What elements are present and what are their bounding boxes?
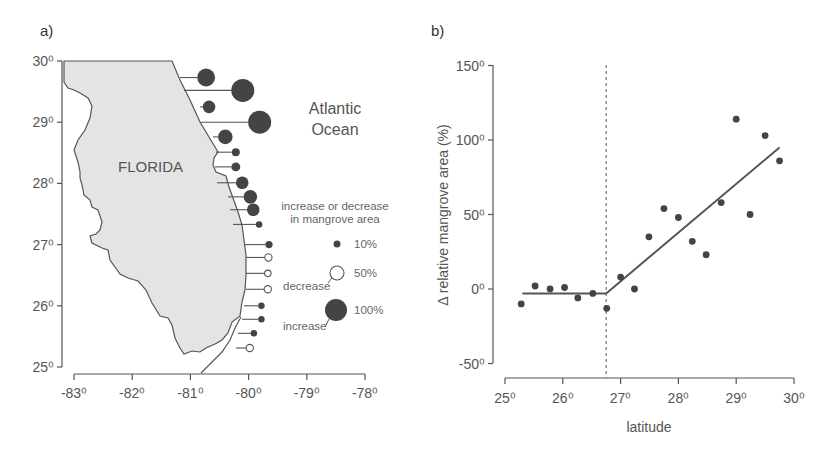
- data-point: [762, 132, 769, 139]
- increase-marker: [251, 330, 258, 337]
- y-tick-label: 150⁰: [456, 58, 485, 74]
- legend-10pct-marker: [334, 241, 341, 248]
- y-tick-label: 26⁰: [32, 298, 54, 314]
- decrease-marker: [265, 254, 272, 261]
- panel-b-y-ticks: 150⁰100⁰50⁰0⁰-50⁰: [456, 58, 493, 372]
- data-point: [518, 301, 525, 308]
- legend-50pct-label: 50%: [354, 267, 377, 279]
- x-tick-label: 26⁰: [552, 390, 574, 406]
- legend-10pct-label: 10%: [354, 238, 377, 250]
- panel-b-x-ticks: 25⁰26⁰27⁰28⁰29⁰30⁰: [494, 378, 805, 406]
- data-point: [532, 283, 539, 290]
- data-point: [574, 295, 581, 302]
- panel-a-y-ticks: 30⁰29⁰28⁰27⁰26⁰25⁰: [32, 53, 62, 375]
- data-point: [675, 214, 682, 221]
- data-point: [733, 116, 740, 123]
- increase-marker: [231, 162, 240, 171]
- data-point: [547, 286, 554, 293]
- x-tick-label: -82⁰: [119, 385, 145, 401]
- increase-marker: [232, 148, 240, 156]
- increase-marker: [244, 190, 258, 204]
- y-tick-label: 100⁰: [456, 132, 485, 148]
- legend-100pct-marker: [325, 299, 347, 321]
- decrease-marker: [246, 344, 253, 351]
- atlantic-label-line2: Ocean: [311, 121, 358, 138]
- increase-marker: [256, 221, 263, 228]
- y-tick-label: 0⁰: [471, 281, 485, 297]
- decrease-marker: [265, 270, 272, 277]
- x-tick-label: 25⁰: [494, 390, 516, 406]
- x-tick-label: -81⁰: [177, 385, 203, 401]
- piecewise-fit-line: [522, 147, 779, 293]
- data-point: [689, 238, 696, 245]
- legend-100pct-label: 100%: [354, 304, 383, 316]
- increase-marker: [265, 241, 272, 248]
- data-point: [776, 157, 783, 164]
- panel-a-label: a): [40, 22, 53, 39]
- data-point: [589, 290, 596, 297]
- y-tick-label: 29⁰: [32, 114, 54, 130]
- x-tick-label: -83⁰: [61, 385, 87, 401]
- panel-a: a) 30⁰29⁰28⁰27⁰26⁰25⁰ -83⁰-82⁰-81⁰-80⁰-7…: [32, 22, 388, 401]
- y-tick-label: 28⁰: [32, 175, 54, 191]
- x-tick-label: 27⁰: [610, 390, 632, 406]
- increase-marker: [248, 111, 271, 134]
- increase-marker: [258, 303, 265, 310]
- panel-a-x-ticks: -83⁰-82⁰-81⁰-80⁰-79⁰-78⁰: [61, 374, 378, 401]
- figure: a) 30⁰29⁰28⁰27⁰26⁰25⁰ -83⁰-82⁰-81⁰-80⁰-7…: [0, 0, 828, 454]
- y-tick-label: 27⁰: [32, 237, 54, 253]
- y-tick-label: 30⁰: [32, 53, 54, 69]
- data-point: [631, 286, 638, 293]
- panel-b-y-label: Δ relative mangrove area (%): [435, 124, 451, 305]
- data-point: [703, 251, 710, 258]
- increase-marker: [218, 130, 233, 145]
- x-tick-label: -78⁰: [352, 385, 378, 401]
- scatter-points: [518, 116, 783, 312]
- legend-increase-label: increase: [283, 320, 326, 332]
- legend-title-line2: in mangrove area: [290, 213, 380, 225]
- legend-decrease-label: decrease: [283, 280, 330, 292]
- increase-marker: [203, 101, 216, 114]
- panel-b-x-label: latitude: [626, 419, 671, 435]
- increase-marker: [236, 176, 249, 189]
- data-point: [617, 274, 624, 281]
- decrease-marker: [264, 286, 271, 293]
- panel-b-label: b): [431, 22, 444, 39]
- florida-landmass: [64, 61, 246, 354]
- increase-marker: [231, 79, 254, 102]
- x-tick-label: 29⁰: [725, 390, 747, 406]
- increase-marker: [247, 203, 260, 216]
- y-tick-label: -50⁰: [459, 356, 485, 372]
- florida-label: FLORIDA: [118, 158, 183, 175]
- legend-50pct-marker: [330, 266, 344, 280]
- panel-b: b) 150⁰100⁰50⁰0⁰-50⁰ 25⁰26⁰27⁰28⁰29⁰30⁰ …: [431, 22, 805, 435]
- legend-title-line1: increase or decrease: [281, 200, 388, 212]
- atlantic-label-line1: Atlantic: [309, 100, 361, 117]
- x-tick-label: -79⁰: [294, 385, 320, 401]
- legend: increase or decrease in mangrove area 10…: [281, 200, 388, 332]
- data-point: [646, 233, 653, 240]
- y-tick-label: 50⁰: [463, 207, 485, 223]
- increase-marker: [197, 69, 215, 87]
- y-tick-label: 25⁰: [32, 359, 54, 375]
- x-tick-label: 28⁰: [668, 390, 690, 406]
- increase-marker: [258, 316, 265, 323]
- data-point: [603, 305, 610, 312]
- data-point: [561, 284, 568, 291]
- data-point: [747, 211, 754, 218]
- x-tick-label: 30⁰: [783, 390, 805, 406]
- data-point: [661, 205, 668, 212]
- data-point: [718, 199, 725, 206]
- x-tick-label: -80⁰: [235, 385, 261, 401]
